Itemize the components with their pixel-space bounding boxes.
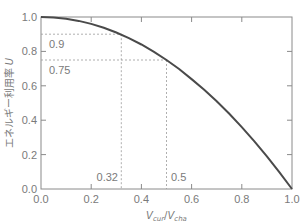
y-tick-label: 0.2 bbox=[22, 149, 37, 161]
y-tick-label: 0.8 bbox=[22, 45, 37, 57]
reference-guides bbox=[41, 34, 167, 189]
utilization-curve bbox=[41, 17, 292, 189]
annotation-label-0.75: 0.75 bbox=[49, 64, 70, 76]
annotation-label-0.5: 0.5 bbox=[171, 171, 186, 183]
x-tick-label: 0.0 bbox=[33, 193, 48, 205]
plot-frame bbox=[41, 17, 292, 189]
annotation-label-0.32: 0.32 bbox=[97, 171, 118, 183]
y-tick-label: 0.4 bbox=[22, 114, 37, 126]
y-tick-label: 1.0 bbox=[22, 11, 37, 23]
energy-utilization-chart: 0.0 0.2 0.4 0.6 0.8 1.0 0.0 0.2 0.4 0.6 … bbox=[0, 0, 308, 224]
x-tick-label: 0.6 bbox=[184, 193, 199, 205]
x-axis-title: Vcur/Vcha bbox=[146, 210, 187, 223]
annotation-label-0.9: 0.9 bbox=[49, 38, 64, 50]
x-tick-label: 0.2 bbox=[84, 193, 99, 205]
x-tick-label: 1.0 bbox=[284, 193, 299, 205]
y-axis-title: エネルギー利用率U bbox=[3, 57, 15, 148]
x-tick-label: 0.4 bbox=[134, 193, 149, 205]
y-tick-labels: 0.0 0.2 0.4 0.6 0.8 1.0 bbox=[22, 11, 37, 195]
x-tick-label: 0.8 bbox=[234, 193, 249, 205]
x-tick-labels: 0.0 0.2 0.4 0.6 0.8 1.0 bbox=[33, 193, 299, 205]
y-axis-ticks bbox=[41, 51, 292, 154]
y-tick-label: 0.6 bbox=[22, 80, 37, 92]
